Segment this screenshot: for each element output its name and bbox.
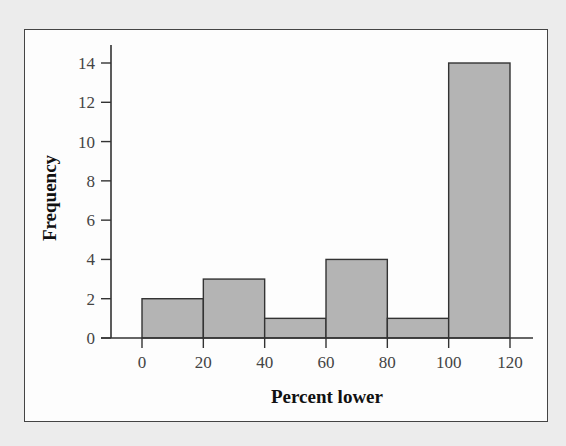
- x-tick-label: 60: [318, 353, 335, 372]
- y-tick-label: 12: [78, 93, 95, 112]
- y-axis-title: Frequency: [39, 154, 60, 241]
- x-tick-label: 100: [436, 353, 462, 372]
- histogram-bar: [142, 299, 203, 338]
- y-tick-label: 14: [78, 54, 96, 73]
- x-axis-ticks: 020406080100120: [138, 338, 523, 372]
- histogram-bars: [142, 63, 510, 338]
- histogram-bar: [326, 259, 387, 338]
- y-tick-label: 0: [87, 329, 96, 348]
- x-tick-label: 20: [195, 353, 212, 372]
- histogram-bar: [203, 279, 264, 338]
- y-tick-label: 4: [87, 250, 96, 269]
- histogram-bar: [265, 318, 326, 338]
- y-tick-label: 6: [87, 211, 96, 230]
- y-tick-label: 10: [78, 133, 95, 152]
- x-axis-title: Percent lower: [271, 386, 384, 407]
- x-tick-label: 120: [497, 353, 523, 372]
- histogram-chart: 02468101214 020406080100120 Percent lowe…: [0, 0, 566, 446]
- y-tick-label: 8: [87, 172, 96, 191]
- x-tick-label: 80: [379, 353, 396, 372]
- histogram-bar: [449, 63, 510, 338]
- y-tick-label: 2: [87, 290, 96, 309]
- y-axis-ticks: 02468101214: [78, 54, 111, 348]
- x-tick-label: 40: [256, 353, 273, 372]
- histogram-bar: [387, 318, 448, 338]
- x-tick-label: 0: [138, 353, 147, 372]
